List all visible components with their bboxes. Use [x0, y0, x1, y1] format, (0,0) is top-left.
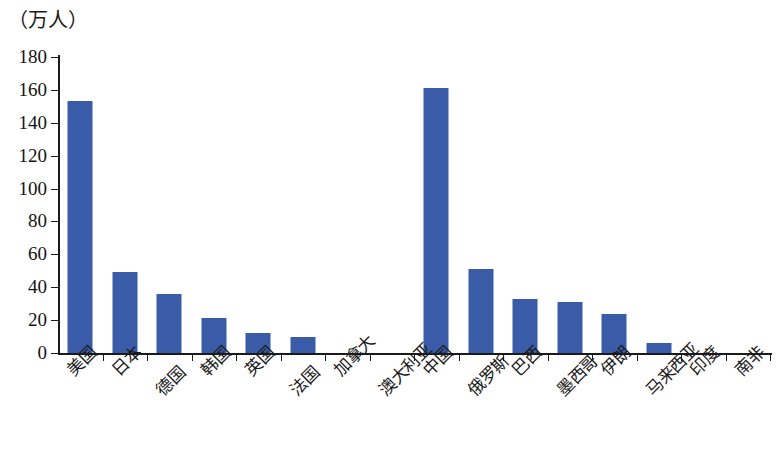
bar-slot	[637, 57, 682, 353]
y-axis-tick-mark	[51, 90, 58, 91]
y-axis-tick-mark	[51, 156, 58, 157]
x-axis-tick-mark	[770, 353, 771, 361]
x-axis-tick-mark	[103, 353, 104, 361]
y-axis-tick-label: 120	[19, 144, 48, 166]
x-axis-label: 墨西哥	[550, 348, 603, 401]
y-axis-tick-label: 160	[19, 78, 48, 100]
bar-slot	[147, 57, 192, 353]
x-axis-tick-mark	[325, 353, 326, 361]
y-axis-tick-label: 60	[28, 243, 47, 265]
y-axis-unit-caption: （万人）	[8, 4, 88, 33]
bar-slot	[592, 57, 637, 353]
y-axis-tick-mark	[51, 57, 58, 58]
bar	[157, 294, 182, 353]
y-axis-tick-mark	[51, 320, 58, 321]
y-axis-tick-mark	[51, 353, 58, 354]
y-axis-tick-label: 140	[19, 111, 48, 133]
bar-slot	[281, 57, 326, 353]
y-axis-tick-mark	[51, 221, 58, 222]
x-axis-label: 法国	[283, 360, 324, 401]
bar	[68, 101, 93, 353]
y-axis-tick-label: 20	[28, 309, 47, 331]
bar-slot	[548, 57, 593, 353]
y-axis-tick-label: 180	[19, 46, 48, 68]
bar-slot	[103, 57, 148, 353]
bar	[646, 343, 671, 353]
y-axis-tick-label: 100	[19, 177, 48, 199]
bar-slot	[370, 57, 415, 353]
y-axis-tick-mark	[51, 123, 58, 124]
bar-slot	[58, 57, 103, 353]
y-axis-tick-label: 0	[38, 342, 48, 364]
plot-area: 180160140120100806040200	[58, 57, 770, 353]
y-axis-tick-mark	[51, 189, 58, 190]
x-axis-tick-mark	[726, 353, 727, 361]
bar-slot	[192, 57, 237, 353]
x-axis-tick-mark	[459, 353, 460, 361]
bar	[290, 337, 315, 353]
bar	[468, 269, 493, 353]
y-axis-tick-label: 40	[28, 276, 47, 298]
x-axis-tick-mark	[548, 353, 549, 361]
y-axis-tick-label: 80	[28, 210, 47, 232]
bar-slot	[414, 57, 459, 353]
x-axis-tick-mark	[192, 353, 193, 361]
bar-slot	[325, 57, 370, 353]
bar-chart: （万人） 180160140120100806040200 美国日本德国韩国英国…	[0, 0, 777, 450]
x-axis-label: 俄罗斯	[461, 348, 514, 401]
x-axis-tick-mark	[236, 353, 237, 361]
x-axis-tick-mark	[281, 353, 282, 361]
x-axis-tick-mark	[637, 353, 638, 361]
bar-slot	[236, 57, 281, 353]
bar-slot	[681, 57, 726, 353]
x-axis-tick-mark	[147, 353, 148, 361]
bar	[112, 272, 137, 353]
y-axis-tick-mark	[51, 254, 58, 255]
bar	[424, 88, 449, 353]
y-axis-tick-mark	[51, 287, 58, 288]
bar-slot	[503, 57, 548, 353]
bar-slot	[726, 57, 771, 353]
bar-slot	[459, 57, 504, 353]
x-axis-label: 德国	[149, 360, 190, 401]
bar	[557, 302, 582, 353]
